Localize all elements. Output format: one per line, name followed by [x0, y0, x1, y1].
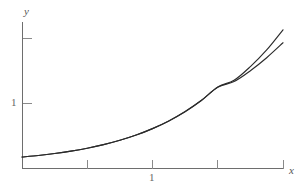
upper-curve	[22, 30, 283, 157]
y-axis-label: y	[24, 6, 29, 17]
math-figure: y x 1 1	[0, 0, 307, 188]
x-tick-label-1: 1	[149, 172, 155, 183]
y-tick-label-1: 1	[11, 97, 17, 108]
lower-curve	[22, 43, 283, 157]
x-axis-label: x	[289, 165, 294, 176]
plot-canvas	[0, 0, 307, 188]
